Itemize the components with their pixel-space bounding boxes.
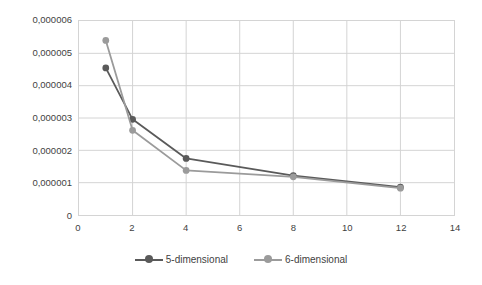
data-point-marker bbox=[102, 65, 109, 72]
y-axis-tick-label: 0,000001 bbox=[32, 178, 72, 188]
y-axis-tick-label: 0,000005 bbox=[32, 48, 72, 58]
y-axis-tick-label: 0 bbox=[67, 211, 72, 221]
y-axis-tick-label: 0,000006 bbox=[32, 15, 72, 25]
x-axis-tick-label: 12 bbox=[396, 222, 407, 233]
legend-label: 5-dimensional bbox=[166, 254, 228, 265]
y-axis-tick-label: 0,000002 bbox=[32, 146, 72, 156]
legend-dot bbox=[264, 255, 272, 263]
series-layer bbox=[79, 21, 454, 215]
x-axis-tick-label: 2 bbox=[129, 222, 134, 233]
legend-item-2[interactable]: 6-dimensional bbox=[254, 254, 347, 265]
x-axis-tick-label: 0 bbox=[75, 222, 80, 233]
y-axis-tick-label: 0,000003 bbox=[32, 113, 72, 123]
line-chart: 00,0000010,0000020,0000030,0000040,00000… bbox=[0, 0, 482, 285]
x-axis-tick-labels: 02468101214 bbox=[0, 222, 482, 238]
plot-area bbox=[78, 20, 455, 216]
legend-label: 6-dimensional bbox=[285, 254, 347, 265]
legend-dot bbox=[145, 255, 153, 263]
data-point-marker bbox=[183, 167, 190, 174]
y-axis-tick-labels: 00,0000010,0000020,0000030,0000040,00000… bbox=[0, 0, 72, 285]
data-point-marker bbox=[290, 173, 297, 180]
series-line-2 bbox=[106, 40, 401, 188]
x-axis-tick-label: 6 bbox=[237, 222, 242, 233]
data-point-marker bbox=[102, 37, 109, 44]
legend-marker-icon bbox=[254, 254, 282, 265]
x-axis-tick-label: 10 bbox=[342, 222, 353, 233]
y-axis-tick-label: 0,000004 bbox=[32, 80, 72, 90]
legend-item-1[interactable]: 5-dimensional bbox=[135, 254, 228, 265]
data-point-marker bbox=[183, 155, 190, 162]
x-axis-tick-label: 14 bbox=[450, 222, 461, 233]
data-point-marker bbox=[397, 185, 404, 192]
series-line-1 bbox=[106, 68, 401, 187]
x-axis-tick-label: 8 bbox=[291, 222, 296, 233]
chart-legend: 5-dimensional6-dimensional bbox=[0, 254, 482, 265]
legend-marker-icon bbox=[135, 254, 163, 265]
data-point-marker bbox=[129, 127, 136, 134]
x-axis-tick-label: 4 bbox=[183, 222, 188, 233]
